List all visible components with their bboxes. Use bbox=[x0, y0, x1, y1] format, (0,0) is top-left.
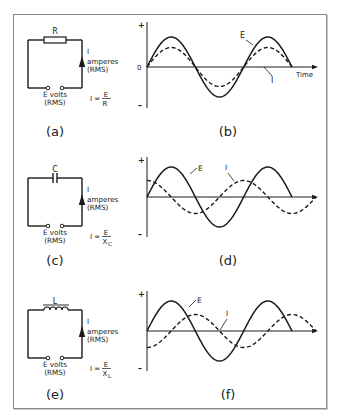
current-arrow-icon bbox=[79, 56, 85, 67]
leader-I bbox=[264, 67, 272, 76]
formula-lhs: I = bbox=[90, 95, 100, 103]
curve-label-I: I bbox=[271, 76, 273, 85]
leader-E bbox=[246, 40, 253, 45]
source-rms-label: (RMS) bbox=[44, 368, 66, 377]
y-axis-minus-label: – bbox=[138, 101, 142, 110]
formula-numerator: E bbox=[104, 229, 108, 237]
formula-lhs: I = bbox=[90, 233, 100, 241]
component-label: C bbox=[52, 165, 58, 174]
caption-a: (a) bbox=[46, 124, 64, 139]
y-axis-plus-label: + bbox=[138, 21, 145, 30]
curve-label-E: E bbox=[197, 296, 202, 305]
ac-circuit-figure: RIamperes(RMS)E volts(RMS)I =ERCIamperes… bbox=[0, 0, 339, 416]
current-rms: (RMS) bbox=[87, 335, 109, 344]
curve-label-E: E bbox=[240, 31, 245, 40]
y-axis-plus-label: + bbox=[138, 290, 145, 299]
x-axis-label: Time bbox=[295, 71, 313, 79]
circuit-e: LIamperes(RMS)E volts(RMS)I =EXL bbox=[28, 297, 119, 379]
y-axis-minus-label: – bbox=[138, 230, 142, 239]
caption-e: (e) bbox=[46, 387, 64, 402]
formula-subscript: L bbox=[108, 373, 112, 379]
waveform-plot-f: +–EI bbox=[138, 290, 318, 373]
component-label: R bbox=[52, 27, 58, 36]
formula-denominator: X bbox=[103, 370, 108, 378]
formula-lhs: I = bbox=[90, 365, 100, 373]
current-rms: (RMS) bbox=[87, 65, 109, 74]
inductor-coil-icon bbox=[44, 307, 68, 310]
leader-I bbox=[220, 319, 227, 330]
current-symbol: I bbox=[87, 317, 89, 326]
source-rms-label: (RMS) bbox=[44, 98, 66, 107]
leader-I bbox=[228, 173, 234, 181]
current-arrow-icon bbox=[79, 326, 85, 337]
y-axis-zero-label: 0 bbox=[137, 64, 141, 72]
circuit-a: RIamperes(RMS)E volts(RMS)I =ER bbox=[28, 27, 119, 108]
formula-numerator: E bbox=[104, 91, 108, 99]
leader-E bbox=[190, 168, 197, 174]
y-axis-plus-label: + bbox=[138, 156, 145, 165]
caption-d: (d) bbox=[219, 253, 237, 268]
x-axis-arrow-icon bbox=[312, 65, 318, 69]
formula-numerator: E bbox=[104, 361, 108, 369]
curve-label-I: I bbox=[225, 163, 227, 172]
component-label: L bbox=[53, 297, 58, 306]
formula-denominator: X bbox=[103, 238, 108, 246]
curve-label-E: E bbox=[198, 164, 203, 173]
formula-subscript: C bbox=[108, 241, 112, 247]
current-symbol: I bbox=[87, 185, 89, 194]
current-symbol: I bbox=[87, 47, 89, 56]
caption-f: (f) bbox=[221, 387, 236, 402]
resistor-icon bbox=[44, 37, 66, 43]
curve-label-I: I bbox=[226, 309, 228, 318]
current-arrow-icon bbox=[79, 194, 85, 205]
waveform-plot-d: +–EI bbox=[138, 156, 318, 239]
source-rms-label: (RMS) bbox=[44, 236, 66, 245]
circuit-c: CIamperes(RMS)E volts(RMS)I =EXC bbox=[28, 165, 119, 247]
waveform-plot-b: +–0TimeEI bbox=[137, 21, 318, 110]
y-axis-minus-label: – bbox=[138, 364, 142, 373]
leader-E bbox=[189, 300, 196, 307]
caption-c: (c) bbox=[46, 253, 63, 268]
formula-denominator: R bbox=[103, 100, 108, 108]
current-rms: (RMS) bbox=[87, 203, 109, 212]
caption-b: (b) bbox=[219, 124, 237, 139]
